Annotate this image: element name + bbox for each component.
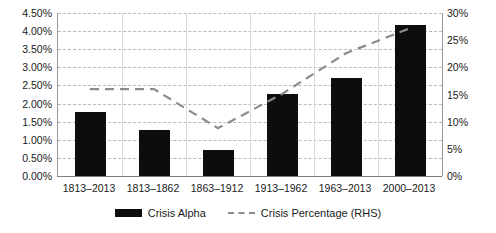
right-axis-tick-label: 15% [447, 90, 468, 101]
right-axis-tick-label: 5% [447, 144, 462, 155]
left-axis-tick-label: 0.00% [22, 171, 52, 182]
left-axis-tick-label: 0.50% [22, 153, 52, 164]
left-axis-tick-label: 4.50% [22, 8, 52, 19]
legend-entry-crisis-alpha: Crisis Alpha [115, 207, 206, 219]
line-path [90, 28, 410, 128]
left-axis-tick-label: 3.00% [22, 62, 52, 73]
left-axis-tick-label: 1.00% [22, 135, 52, 146]
chart-legend: Crisis Alpha Crisis Percentage (RHS) [0, 207, 496, 219]
left-axis-tick-label: 4.00% [22, 26, 52, 37]
category-label: 1813–1862 [121, 181, 185, 195]
legend-entry-crisis-percentage: Crisis Percentage (RHS) [228, 207, 381, 219]
category-label: 1963–2013 [313, 181, 377, 195]
right-axis-tick-label: 25% [447, 35, 468, 46]
legend-label-crisis-percentage: Crisis Percentage (RHS) [261, 207, 381, 219]
category-axis-line [57, 176, 442, 177]
crisis-alpha-combo-chart: 4.50%4.00%3.50%3.00%2.50%2.00%1.50%1.00%… [0, 0, 496, 233]
right-axis-tick-label: 20% [447, 62, 468, 73]
dashed-line-swatch-icon [228, 212, 255, 214]
category-label: 2000–2013 [377, 181, 441, 195]
right-axis-tick-label: 0% [447, 171, 462, 182]
plot-area [57, 13, 443, 176]
left-axis-tick-label: 3.50% [22, 44, 52, 55]
left-axis-tick-label: 2.00% [22, 99, 52, 110]
category-axis-tick-labels: 1813–20131813–18621863–19121913–19621963… [57, 181, 441, 197]
category-label: 1913–1962 [249, 181, 313, 195]
left-axis-tick-label: 2.50% [22, 80, 52, 91]
right-axis-tick-label: 10% [447, 117, 468, 128]
left-axis-tick-label: 1.50% [22, 117, 52, 128]
right-axis-tick-labels: 30%25%20%15%10%5%0% [447, 0, 493, 233]
category-label: 1813–2013 [57, 181, 121, 195]
bar-swatch-icon [115, 209, 142, 217]
category-label: 1863–1912 [185, 181, 249, 195]
right-axis-tick-label: 30% [447, 8, 468, 19]
line-series-crisis-percentage [58, 13, 442, 176]
left-axis-tick-labels: 4.50%4.00%3.50%3.00%2.50%2.00%1.50%1.00%… [0, 0, 52, 233]
legend-label-crisis-alpha: Crisis Alpha [148, 207, 206, 219]
